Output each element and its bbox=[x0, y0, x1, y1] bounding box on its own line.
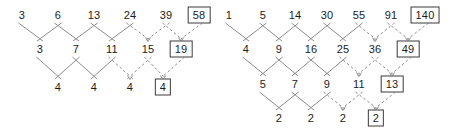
value-node: 2 bbox=[276, 112, 282, 125]
predicted-value-node: 2 bbox=[368, 110, 384, 127]
extrapolated-edge bbox=[324, 92, 347, 110]
predicted-value-node: 13 bbox=[381, 76, 404, 93]
value-node: 36 bbox=[369, 43, 382, 56]
difference-edge bbox=[91, 57, 116, 79]
extrapolated-edge bbox=[405, 23, 429, 41]
value-node: 91 bbox=[385, 9, 398, 22]
difference-edge bbox=[55, 57, 80, 79]
difference-edge bbox=[55, 23, 80, 41]
value-node: 30 bbox=[321, 9, 334, 22]
difference-edge bbox=[37, 57, 62, 79]
value-node: 4 bbox=[91, 81, 97, 94]
arrowhead-icon bbox=[127, 76, 132, 80]
extrapolated-edge bbox=[127, 57, 152, 79]
difference-edge bbox=[308, 92, 331, 110]
value-node: 55 bbox=[353, 9, 366, 22]
value-node: 25 bbox=[337, 43, 350, 56]
value-node: 13 bbox=[88, 9, 101, 22]
difference-edge bbox=[73, 57, 98, 79]
value-node: 11 bbox=[353, 78, 365, 91]
extrapolated-edge bbox=[160, 57, 185, 79]
difference-edge bbox=[260, 57, 283, 76]
difference-triangles-figure: 3613243958371115194444 15143055911404916… bbox=[0, 0, 464, 131]
value-node: 39 bbox=[160, 9, 173, 22]
value-node: 9 bbox=[276, 43, 282, 56]
extrapolated-edge bbox=[163, 23, 185, 41]
difference-edge bbox=[243, 57, 267, 76]
difference-edge bbox=[276, 57, 299, 76]
difference-edge bbox=[308, 23, 331, 41]
extrapolated-edge bbox=[145, 57, 167, 79]
value-node: 16 bbox=[305, 43, 318, 56]
difference-edge bbox=[340, 23, 363, 41]
value-node: 5 bbox=[260, 78, 266, 91]
difference-edge bbox=[243, 23, 267, 41]
difference-edge bbox=[260, 23, 283, 41]
value-node: 7 bbox=[73, 43, 79, 56]
extrapolated-edge bbox=[356, 92, 380, 110]
extrapolated-edge bbox=[356, 57, 379, 76]
arrowhead-icon bbox=[372, 38, 377, 42]
value-node: 6 bbox=[55, 9, 61, 22]
arrowhead-icon bbox=[356, 73, 361, 77]
value-node: 3 bbox=[19, 9, 25, 22]
extrapolated-edge bbox=[178, 23, 203, 41]
predicted-value-node: 140 bbox=[411, 7, 440, 24]
value-node: 1 bbox=[226, 9, 232, 22]
extrapolated-edge bbox=[373, 92, 396, 110]
difference-edge bbox=[324, 57, 347, 76]
left-difference-triangle: 3613243958371115194444 bbox=[0, 0, 225, 131]
arrowhead-icon bbox=[340, 107, 345, 111]
value-node: 4 bbox=[243, 43, 249, 56]
extrapolated-edge bbox=[145, 23, 170, 41]
value-node: 5 bbox=[260, 9, 266, 22]
difference-edge bbox=[324, 23, 347, 41]
value-node: 24 bbox=[124, 9, 137, 22]
extrapolated-edge bbox=[340, 92, 363, 110]
extrapolated-edge bbox=[389, 57, 412, 76]
value-node: 4 bbox=[55, 81, 61, 94]
difference-edge bbox=[292, 92, 315, 110]
value-node: 15 bbox=[142, 43, 155, 56]
extrapolated-edge bbox=[372, 57, 396, 76]
value-node: 2 bbox=[340, 112, 346, 125]
extrapolated-edge bbox=[356, 23, 379, 41]
difference-edge bbox=[308, 57, 331, 76]
difference-edge bbox=[276, 92, 299, 110]
difference-edge bbox=[37, 23, 62, 41]
extrapolated-edge bbox=[127, 23, 152, 41]
predicted-value-node: 19 bbox=[170, 41, 193, 58]
difference-edge bbox=[91, 23, 116, 41]
value-node: 3 bbox=[37, 43, 43, 56]
value-node: 11 bbox=[106, 43, 118, 56]
extrapolated-edge bbox=[340, 57, 363, 76]
difference-edge bbox=[292, 23, 315, 41]
extrapolated-edge bbox=[372, 23, 395, 41]
difference-edge bbox=[292, 57, 315, 76]
difference-edge bbox=[276, 23, 299, 41]
difference-edge bbox=[109, 23, 134, 41]
value-node: 14 bbox=[289, 9, 302, 22]
difference-edge bbox=[19, 23, 44, 41]
difference-edge bbox=[73, 23, 98, 41]
predicted-value-node: 58 bbox=[188, 7, 211, 24]
arrowhead-icon bbox=[145, 38, 150, 42]
extrapolated-edge bbox=[388, 23, 412, 41]
value-node: 2 bbox=[308, 112, 314, 125]
difference-edge bbox=[260, 92, 283, 110]
predicted-value-node: 49 bbox=[397, 41, 420, 58]
right-difference-triangle: 1514305591140491625364957911132222 bbox=[225, 0, 464, 131]
difference-edge bbox=[226, 23, 250, 41]
value-node: 9 bbox=[324, 78, 330, 91]
value-node: 7 bbox=[292, 78, 298, 91]
extrapolated-edge bbox=[109, 57, 134, 79]
value-node: 4 bbox=[127, 81, 133, 94]
predicted-value-node: 4 bbox=[155, 79, 171, 96]
